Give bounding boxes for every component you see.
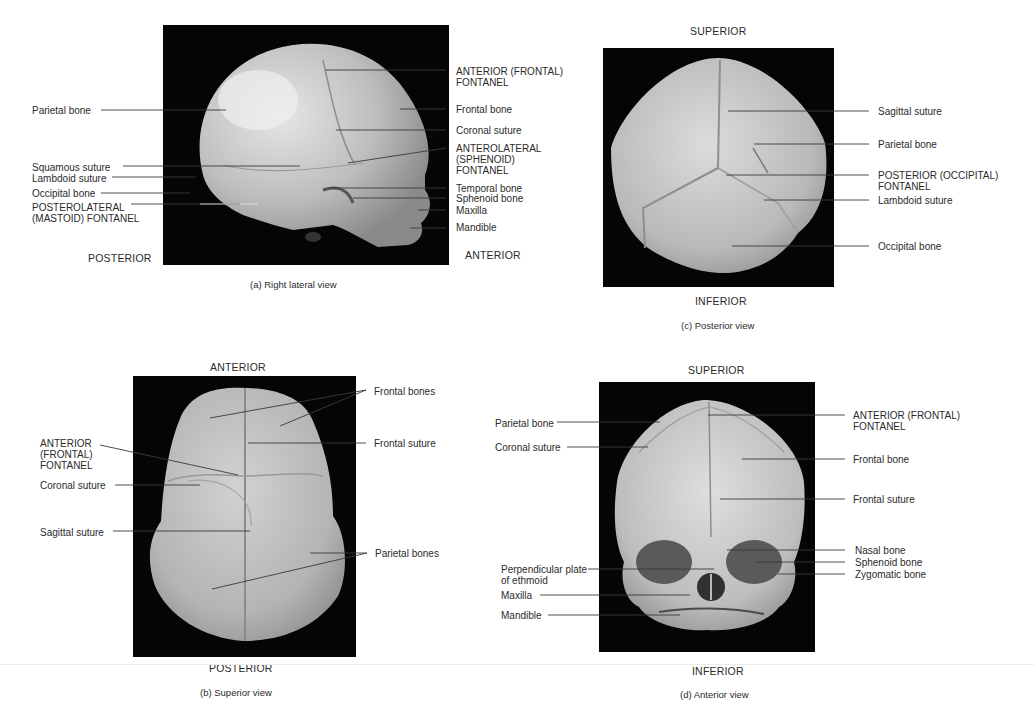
photo-posterior-view bbox=[603, 48, 834, 287]
direction-label-posterior: POSTERIOR bbox=[88, 252, 152, 264]
label-posterolateral-fontanel: POSTEROLATERAL (MASTOID) FONTANEL bbox=[32, 202, 139, 224]
photo-anterior-view bbox=[599, 382, 815, 652]
label-mandible: Mandible bbox=[501, 610, 542, 621]
label-coronal-suture: Coronal suture bbox=[495, 442, 561, 453]
label-lambdoid-suture: Lambdoid suture bbox=[32, 173, 107, 184]
label-perpendicular-plate-ethmoid: Perpendicular plate of ethmoid bbox=[501, 564, 587, 586]
label-maxilla: Maxilla bbox=[501, 590, 532, 601]
label-frontal-bones: Frontal bones bbox=[374, 386, 435, 397]
label-squamous-suture: Squamous suture bbox=[32, 162, 110, 173]
skull-superior-illustration bbox=[133, 376, 356, 657]
direction-label-inferior: INFERIOR bbox=[692, 665, 744, 677]
label-frontal-bone: Frontal bone bbox=[456, 104, 512, 115]
label-sagittal-suture: Sagittal suture bbox=[40, 527, 104, 538]
label-sphenoid-bone: Sphenoid bone bbox=[855, 557, 922, 568]
label-lambdoid-suture: Lambdoid suture bbox=[878, 195, 953, 206]
label-frontal-suture: Frontal suture bbox=[853, 494, 915, 505]
label-sphenoid-bone: Sphenoid bone bbox=[456, 193, 523, 204]
label-anterolateral-fontanel: ANTEROLATERAL (SPHENOID) FONTANEL bbox=[456, 143, 541, 176]
caption-anterior-view: (d) Anterior view bbox=[680, 689, 749, 700]
caption-right-lateral-view: (a) Right lateral view bbox=[250, 279, 337, 290]
label-mandible: Mandible bbox=[456, 222, 497, 233]
label-sagittal-suture: Sagittal suture bbox=[878, 106, 942, 117]
label-maxilla: Maxilla bbox=[456, 205, 487, 216]
skull-anterior-illustration bbox=[599, 382, 815, 652]
page-divider bbox=[0, 664, 1034, 665]
label-coronal-suture: Coronal suture bbox=[40, 480, 106, 491]
label-parietal-bones: Parietal bones bbox=[375, 548, 439, 559]
label-coronal-suture: Coronal suture bbox=[456, 125, 522, 136]
label-zygomatic-bone: Zygomatic bone bbox=[855, 569, 926, 580]
skull-posterior-illustration bbox=[603, 48, 834, 287]
direction-label-superior: SUPERIOR bbox=[688, 364, 744, 376]
caption-superior-view: (b) Superior view bbox=[200, 687, 272, 698]
label-occipital-bone: Occipital bone bbox=[32, 188, 95, 199]
label-frontal-bone: Frontal bone bbox=[853, 454, 909, 465]
photo-superior-view bbox=[133, 376, 356, 657]
direction-label-inferior: INFERIOR bbox=[695, 295, 747, 307]
direction-label-anterior: ANTERIOR bbox=[465, 249, 521, 261]
label-anterior-fontanel: ANTERIOR (FRONTAL) FONTANEL bbox=[853, 410, 960, 432]
label-parietal-bone: Parietal bone bbox=[495, 418, 554, 429]
direction-label-superior: SUPERIOR bbox=[690, 25, 746, 37]
label-parietal-bone: Parietal bone bbox=[32, 105, 91, 116]
skull-lateral-illustration bbox=[163, 25, 449, 265]
label-frontal-suture: Frontal suture bbox=[374, 438, 436, 449]
label-anterior-fontanel: ANTERIOR (FRONTAL) FONTANEL bbox=[40, 438, 93, 471]
direction-label-anterior: ANTERIOR bbox=[210, 361, 266, 373]
label-posterior-fontanel: POSTERIOR (OCCIPITAL) FONTANEL bbox=[878, 170, 998, 192]
label-occipital-bone: Occipital bone bbox=[878, 241, 941, 252]
label-anterior-fontanel: ANTERIOR (FRONTAL) FONTANEL bbox=[456, 66, 563, 88]
label-nasal-bone: Nasal bone bbox=[855, 545, 906, 556]
caption-posterior-view: (c) Posterior view bbox=[681, 320, 754, 331]
photo-right-lateral-view bbox=[163, 25, 449, 265]
label-parietal-bone: Parietal bone bbox=[878, 139, 937, 150]
